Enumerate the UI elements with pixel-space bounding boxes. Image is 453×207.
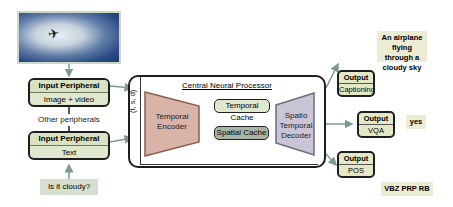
answer-captioning: An airplane flying through a cloudy sky xyxy=(377,31,427,62)
output-vqa: Output VQA xyxy=(357,111,395,138)
answer-pos: VBZ PRP RB xyxy=(381,182,433,196)
temporal-cache: Temporal Cache xyxy=(214,99,270,113)
peripheral-body: Image + video xyxy=(30,93,108,106)
output-pos: Output POS xyxy=(337,151,375,178)
input-image xyxy=(17,11,121,64)
airplane-icon: ✈ xyxy=(47,25,60,42)
output-header: Output xyxy=(359,113,393,125)
peripheral-header: Input Peripheral xyxy=(30,80,108,93)
processor-title: Central Neural Processor xyxy=(182,81,272,90)
input-peripheral-text: Input Peripheral Text xyxy=(28,131,110,160)
text-query: Is it cloudy? xyxy=(40,179,98,195)
answer-vqa: yes xyxy=(406,115,426,129)
spatial-cache: Spatial Cache xyxy=(214,126,269,140)
output-body: POS xyxy=(339,165,373,177)
output-header: Output xyxy=(339,153,373,165)
peripheral-body: Text xyxy=(30,146,108,159)
temporal-encoder-label: Temporal Encoder xyxy=(146,112,198,132)
other-peripherals-label: Other peripherals xyxy=(38,115,100,124)
decoder-label: Spatio Temporal Decoder xyxy=(276,111,316,141)
output-header: Output xyxy=(339,72,373,84)
peripheral-header: Input Peripheral xyxy=(30,133,108,146)
output-body: VQA xyxy=(359,125,393,137)
output-captioning: Output Captioning xyxy=(337,70,375,97)
output-body: Captioning xyxy=(339,84,373,96)
input-peripheral-image: Input Peripheral Image + video xyxy=(28,78,110,107)
tsd-label: (t, s, d) xyxy=(128,90,137,113)
